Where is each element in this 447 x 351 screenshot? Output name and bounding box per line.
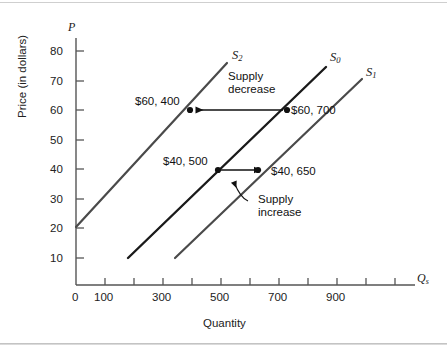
x-tick-label-300: 300 — [152, 291, 171, 304]
data-point-40-650 — [255, 167, 261, 173]
curve-label-s0: S0 — [330, 50, 341, 66]
y-tick-label-50: 50 — [50, 134, 63, 147]
curve-label-s1: S1 — [366, 65, 377, 81]
y-tick-label-40: 40 — [50, 163, 63, 176]
y-axis-title: Price (in dollars) — [16, 35, 28, 118]
annotation-supply-increase-line1: Supply — [258, 193, 301, 206]
x-tick-label-900: 900 — [326, 291, 345, 304]
point-label-60-400: $60, 400 — [135, 95, 180, 108]
point-label-40-650: $40, 650 — [271, 165, 316, 178]
annotation-supply-decrease-line2: decrease — [228, 83, 275, 96]
y-tick-label-70: 70 — [50, 75, 63, 88]
data-point-40-500 — [215, 167, 221, 173]
point-label-40-500: $40, 500 — [163, 155, 208, 168]
curve-label-s1-subscript: 1 — [372, 70, 376, 80]
x-tick-label-700: 700 — [268, 291, 287, 304]
x-axis-symbol-base: Q — [417, 271, 426, 285]
x-axis-title: Quantity — [203, 317, 246, 329]
annotation-supply-increase-line2: increase — [258, 206, 301, 219]
point-label-60-700: $60, 700 — [291, 104, 336, 117]
y-tick-label-80: 80 — [50, 45, 63, 58]
curve-label-s0-subscript: 0 — [336, 55, 340, 65]
y-tick-label-30: 30 — [50, 193, 63, 206]
y-tick-label-20: 20 — [50, 222, 63, 235]
x-axis-ticks — [105, 278, 395, 285]
y-axis-symbol: P — [68, 21, 75, 34]
y-tick-label-10: 10 — [50, 252, 63, 265]
x-tick-label-0: 0 — [72, 291, 78, 304]
annotation-supply-increase: Supply increase — [258, 193, 301, 219]
annotation-supply-decrease: Supply decrease — [228, 70, 275, 96]
x-axis-symbol-subscript: s — [426, 277, 429, 286]
supply-curve-figure: P Qs 10 20 30 40 50 60 70 80 0 100 300 5… — [0, 0, 447, 351]
x-tick-label-500: 500 — [210, 291, 229, 304]
annotation-supply-decrease-line1: Supply — [228, 70, 275, 83]
curve-label-s2: S2 — [232, 48, 243, 64]
x-axis-symbol: Qs — [417, 272, 429, 287]
data-point-60-700 — [284, 107, 290, 113]
x-tick-label-100: 100 — [94, 291, 113, 304]
y-tick-label-60: 60 — [50, 104, 63, 117]
data-point-60-400 — [187, 107, 193, 113]
supply-curve-s2 — [76, 63, 227, 227]
curve-label-s2-subscript: 2 — [238, 53, 242, 63]
